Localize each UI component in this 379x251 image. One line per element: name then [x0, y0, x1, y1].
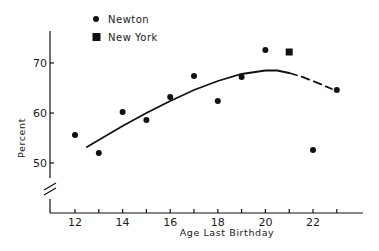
y-tick-label: 70	[33, 57, 47, 70]
data-point-circle	[120, 109, 126, 115]
fitted-curve-solid	[87, 71, 289, 148]
data-point-circle	[96, 150, 102, 156]
y-tick-label: 50	[33, 157, 47, 170]
data-point-circle	[215, 98, 221, 104]
data-point-circle	[310, 147, 316, 153]
data-point-circle	[72, 132, 78, 138]
data-point-circle	[143, 117, 149, 123]
y-tick-label: 60	[33, 107, 47, 120]
legend: Newton New York	[93, 14, 158, 43]
fitted-curve	[87, 71, 332, 148]
legend-circle-icon	[93, 16, 99, 22]
y-ticks: 506070	[33, 57, 54, 170]
x-tick-label: 16	[163, 216, 177, 229]
chart: 506070 121416182022 Age Last Birthday Pe…	[0, 0, 379, 251]
y-axis-title: Percent	[16, 118, 27, 158]
x-tick-label: 22	[306, 216, 320, 229]
data-points	[72, 47, 340, 156]
axes	[44, 31, 363, 213]
data-point-circle	[239, 74, 245, 80]
legend-square-icon	[93, 33, 101, 41]
x-ticks: 121416182022	[68, 209, 337, 229]
legend-label-newton: Newton	[108, 14, 149, 25]
fitted-curve-dashed	[289, 73, 332, 89]
x-axis-title: Age Last Birthday	[180, 227, 275, 238]
x-tick-label: 12	[68, 216, 82, 229]
data-point-circle	[167, 94, 173, 100]
x-tick-label: 14	[116, 216, 130, 229]
data-point-circle	[262, 47, 268, 53]
data-point-circle	[191, 73, 197, 79]
data-point-circle	[334, 87, 340, 93]
legend-label-new-york: New York	[108, 32, 158, 43]
data-point-square	[286, 49, 293, 56]
